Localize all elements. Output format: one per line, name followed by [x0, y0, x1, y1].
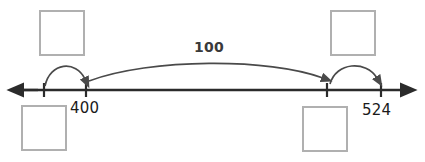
answer-box-bottom-right[interactable]: [302, 106, 348, 152]
answer-box-bottom-left[interactable]: [21, 105, 67, 151]
jump-arc-right: [330, 66, 377, 84]
tick-label-524: 524: [362, 103, 391, 118]
jump-label-100: 100: [194, 40, 224, 54]
tick-label-400: 400: [70, 101, 99, 116]
jump-arc-center: [89, 63, 323, 81]
answer-box-top-right[interactable]: [330, 10, 376, 56]
number-line-worksheet: 400 524 100: [0, 0, 425, 162]
answer-box-top-left[interactable]: [39, 10, 85, 56]
jump-arc-left: [45, 66, 85, 86]
